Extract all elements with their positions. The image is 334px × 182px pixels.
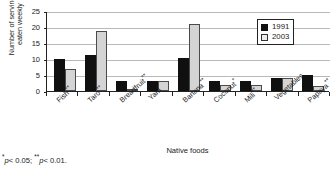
legend-swatch-2003	[261, 34, 268, 41]
legend-item-2003: 2003	[261, 32, 289, 42]
bar-group	[49, 11, 80, 91]
y-tick-label: 15	[16, 40, 40, 48]
legend-label-1991: 1991	[272, 23, 289, 31]
y-tick-label: 25	[16, 8, 40, 16]
y-tick-label: 0	[16, 88, 40, 96]
chart-legend: 1991 2003	[257, 19, 294, 45]
y-tick-label: 5	[16, 72, 40, 80]
bar-2003	[96, 31, 107, 91]
bar-1991	[178, 58, 189, 91]
footnote-value-2: < 0.01.	[43, 156, 66, 165]
x-tick-mark	[329, 92, 330, 96]
x-axis-title: Native foods	[46, 146, 329, 155]
y-tick-label: 20	[16, 24, 40, 32]
y-tick-label: 10	[16, 56, 40, 64]
chart-figure: Number of servings eaten weekly 05101520…	[0, 0, 334, 182]
significance-footnote: *p< 0.05; **p< 0.01.	[2, 152, 67, 165]
legend-swatch-1991	[261, 24, 268, 31]
legend-item-1991: 1991	[261, 22, 289, 32]
x-axis-labels: Fish**Taro**Breadfruit**YamBanana**Cocon…	[46, 96, 329, 142]
footnote-value-1: < 0.05;	[9, 156, 35, 165]
legend-label-2003: 2003	[272, 33, 289, 41]
bar-group	[80, 11, 111, 91]
